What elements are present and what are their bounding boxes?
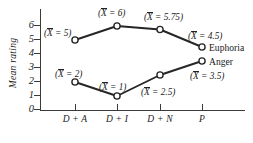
annot-value: = 3.5) — [199, 71, 225, 81]
annot-mean-symbol: X — [147, 12, 153, 22]
annot-mean-symbol: X — [144, 87, 150, 97]
annotation-anger-d-plus-a: (X = 2) — [55, 69, 82, 79]
series-markers-anger — [72, 58, 205, 99]
data-point-anger-p — [199, 58, 205, 64]
annot-mean-symbol: X — [58, 69, 64, 79]
data-point-anger-d-plus-i — [114, 93, 120, 99]
data-point-euphoria-d-plus-i — [114, 23, 120, 29]
annotation-euphoria-d-plus-i: (X = 6) — [98, 8, 125, 18]
annot-value: = 4.5) — [197, 31, 223, 41]
annot-value: = 6) — [107, 8, 126, 18]
series-line-anger — [75, 61, 202, 96]
annot-value: = 5) — [53, 28, 72, 38]
annotation-euphoria-d-plus-a: (X = 5) — [44, 28, 71, 38]
annotation-anger-d-plus-n: (X = 2.5) — [141, 87, 175, 97]
annot-value: = 2.5) — [150, 87, 176, 97]
series-label-anger: Anger — [209, 57, 233, 67]
data-point-euphoria-d-plus-a — [72, 37, 78, 43]
annot-value: = 1) — [108, 82, 127, 92]
series-line-euphoria — [75, 26, 202, 47]
data-point-anger-d-plus-n — [157, 72, 163, 78]
annot-mean-symbol: X — [102, 82, 108, 92]
annot-mean-symbol: X — [191, 31, 197, 41]
annot-mean-symbol: X — [101, 8, 107, 18]
annot-mean-symbol: X — [47, 28, 53, 38]
data-point-euphoria-p — [199, 44, 205, 50]
annotation-anger-p: (X = 3.5) — [190, 71, 224, 81]
data-point-anger-d-plus-a — [72, 79, 78, 85]
chart-figure: 6 5 4 3 2 1 0 Mean rating D + A D + I D … — [0, 0, 253, 143]
annot-value: = 5.75) — [153, 12, 183, 22]
annotation-euphoria-d-plus-n: (X = 5.75) — [144, 12, 183, 22]
annotation-anger-d-plus-i: (X = 1) — [99, 82, 126, 92]
annot-value: = 2) — [64, 69, 83, 79]
annot-mean-symbol: X — [193, 71, 199, 81]
data-point-euphoria-d-plus-n — [157, 26, 163, 32]
annotation-euphoria-p: (X = 4.5) — [188, 31, 222, 41]
series-label-euphoria: Euphoria — [209, 43, 244, 53]
